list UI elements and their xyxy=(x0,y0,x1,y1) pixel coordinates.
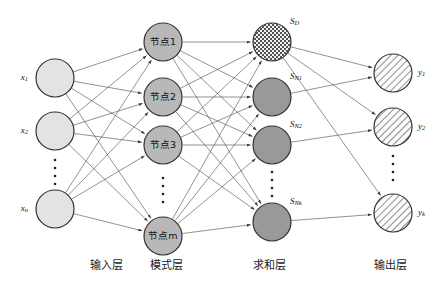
vertical-ellipsis-dot xyxy=(271,187,274,190)
yk-node xyxy=(374,194,412,232)
connection-edge xyxy=(66,94,151,218)
node-label-group: x1x2xn节点1节点2节点3节点mSDSN1SN2SNky1y2yk xyxy=(20,16,426,241)
y2-node xyxy=(374,108,412,146)
node-group xyxy=(36,23,412,255)
pattern-node-3-label: 节点3 xyxy=(150,139,176,150)
sum-node-N2-label: SN2 xyxy=(290,119,303,130)
x1-label: x1 xyxy=(20,72,28,83)
vertical-ellipsis-dot xyxy=(54,175,57,178)
connection-edge xyxy=(177,55,256,130)
vertical-ellipsis-dot xyxy=(54,159,57,162)
connection-edge xyxy=(181,106,252,137)
layer-label-output: 输出层 xyxy=(344,256,436,272)
connection-edge xyxy=(73,49,142,72)
connection-edge xyxy=(182,225,250,234)
sum-node-D-node xyxy=(253,23,291,61)
connection-edge xyxy=(178,159,256,224)
vertical-ellipsis-dot xyxy=(392,155,395,158)
connection-edge xyxy=(74,214,142,231)
connection-edge xyxy=(288,53,375,114)
x2-label: x2 xyxy=(20,125,29,136)
vertical-ellipsis-dot xyxy=(162,177,165,180)
layer-label-summation: 求和层 xyxy=(223,256,315,272)
connection-edge xyxy=(70,56,146,119)
vertical-ellipsis-dot xyxy=(271,171,274,174)
sum-node-D-label: SD xyxy=(290,16,300,27)
connection-edge xyxy=(173,61,262,219)
connection-edge xyxy=(181,105,252,136)
pattern-node-1-label: 节点1 xyxy=(150,36,176,47)
pattern-node-m-label: 节点m xyxy=(148,230,177,241)
vertical-ellipsis-dot xyxy=(271,179,274,182)
vertical-ellipsis-dot xyxy=(54,183,57,186)
x1-node xyxy=(36,59,74,97)
sum-node-N1-label: SN1 xyxy=(290,71,302,82)
vertical-ellipsis-dot xyxy=(162,201,165,204)
vertical-ellipsis-dot xyxy=(162,185,165,188)
vertical-ellipsis-dot xyxy=(271,195,274,198)
layer-label-pattern: 模式层 xyxy=(120,256,212,272)
connection-edge xyxy=(291,77,372,93)
sum-node-Nk-node xyxy=(253,203,291,241)
edge-group xyxy=(66,42,381,234)
connection-edge xyxy=(173,59,261,204)
vertical-ellipsis-dot xyxy=(392,163,395,166)
xn-node xyxy=(36,190,74,228)
sum-node-N2-node xyxy=(253,126,291,164)
pnn-architecture-diagram: x1x2xn节点1节点2节点3节点mSDSN1SN2SNky1y2yk 输入层 … xyxy=(0,0,445,292)
connection-edge xyxy=(291,215,371,221)
connection-edge xyxy=(74,134,141,143)
xn-label: xn xyxy=(20,203,28,214)
sum-node-Nk-label: SNk xyxy=(290,196,302,207)
y1-label: y1 xyxy=(417,67,425,78)
connection-edge xyxy=(74,103,143,125)
connection-edge xyxy=(175,114,259,221)
network-graph: x1x2xn节点1节点2节点3节点mSDSN1SN2SNky1y2yk xyxy=(0,0,445,292)
connection-edge xyxy=(291,130,371,142)
connection-edge xyxy=(291,47,372,68)
pattern-node-2-label: 节点2 xyxy=(150,91,176,102)
y1-node xyxy=(374,54,412,92)
x2-node xyxy=(36,112,74,150)
vertical-ellipsis-dot xyxy=(54,167,57,170)
yk-label: yk xyxy=(417,207,425,218)
vertical-ellipsis-dot xyxy=(392,171,395,174)
connection-edge xyxy=(180,52,252,89)
vertical-ellipsis-dot xyxy=(162,193,165,196)
connection-edge xyxy=(66,60,152,193)
sum-node-N1-node xyxy=(253,78,291,116)
y2-label: y2 xyxy=(417,121,426,132)
vertical-ellipsis-dot xyxy=(392,179,395,182)
